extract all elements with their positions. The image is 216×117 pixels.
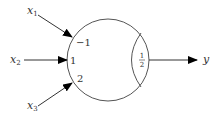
input-label-x2: x2 <box>10 53 21 67</box>
neuron-body <box>67 19 149 101</box>
input-label-x1: x1 <box>27 4 38 18</box>
output-label-y: y <box>202 53 210 66</box>
threshold-numerator: 1 <box>140 52 144 60</box>
weight-label-1: −1 <box>76 37 91 48</box>
input-label-x3: x3 <box>27 99 38 113</box>
threshold-denominator: 2 <box>140 61 144 69</box>
input-arrow-x3 <box>38 83 72 106</box>
weight-label-2: 1 <box>70 55 76 66</box>
weight-label-3: 2 <box>77 73 83 84</box>
input-arrow-x1 <box>38 15 72 37</box>
neuron-diagram: x1 x2 x3 −1 1 2 1 2 y <box>0 0 216 117</box>
